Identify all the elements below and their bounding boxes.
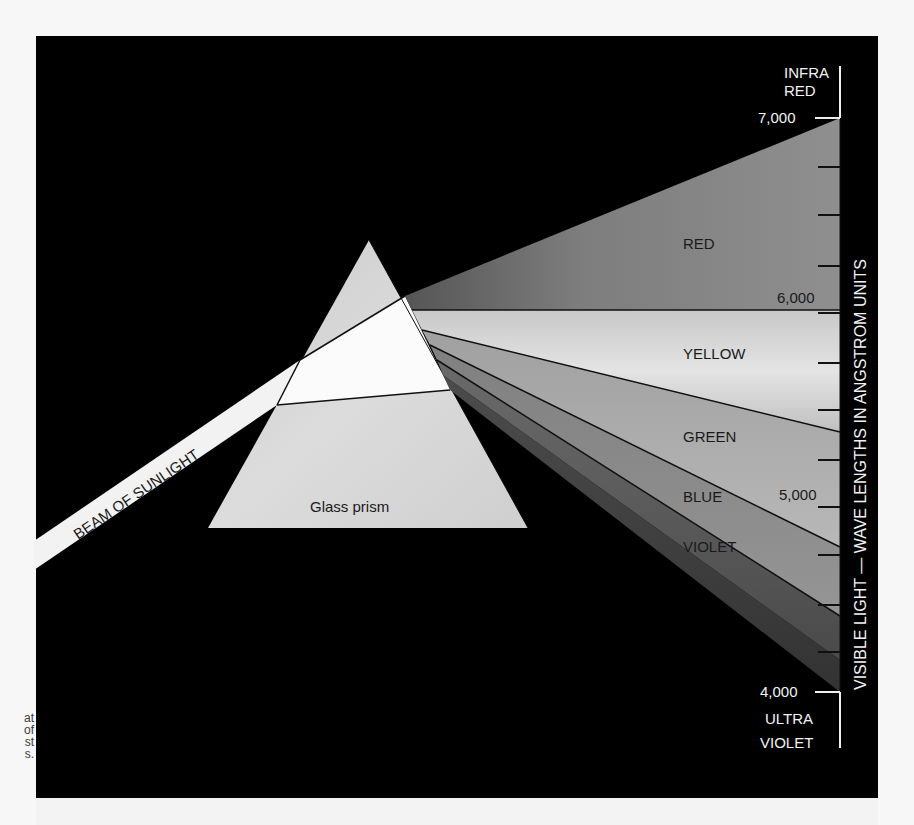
violet-sublabel: VIOLET xyxy=(760,734,813,751)
band-label-green: GREEN xyxy=(683,428,736,445)
tick-label-4000: 4,000 xyxy=(760,683,798,700)
prism-diagram: INFRA RED 7,000 4,000 ULTRA VIOLET 6,000… xyxy=(0,0,914,825)
tick-label-7000: 7,000 xyxy=(758,109,796,126)
tick-label-6000: 6,000 xyxy=(777,289,815,306)
band-red xyxy=(405,118,840,310)
band-label-blue: BLUE xyxy=(683,488,722,505)
infra-label: INFRA xyxy=(784,64,829,81)
band-label-violet: VIOLET xyxy=(683,538,736,555)
prism-label: Glass prism xyxy=(310,498,389,515)
beam-label: BEAM OF SUNLIGHT xyxy=(70,445,202,542)
band-label-red: RED xyxy=(683,235,715,252)
axis-title: VISIBLE LIGHT — WAVE LENGTHS IN ANGSTROM… xyxy=(852,259,869,690)
red-sublabel: RED xyxy=(784,82,816,99)
band-label-yellow: YELLOW xyxy=(683,345,746,362)
tick-label-5000: 5,000 xyxy=(779,486,817,503)
ultra-label: ULTRA xyxy=(765,710,813,727)
